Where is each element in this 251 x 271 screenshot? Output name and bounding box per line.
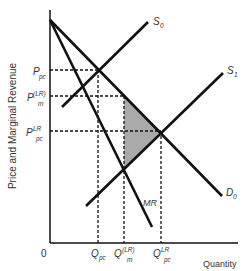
svg-text:0: 0 (160, 22, 164, 29)
y-axis-label: Price and Marginal Revenue (7, 62, 18, 189)
quantity-label-q-pc-lr: Q LR pc (153, 246, 172, 264)
price-label-p-pc: P pc (33, 66, 47, 81)
label-mr: MR (143, 198, 157, 208)
svg-text:1: 1 (234, 71, 238, 78)
svg-text:pc: pc (35, 135, 44, 143)
origin-label: 0 (41, 248, 47, 259)
svg-text:m: m (127, 256, 133, 263)
svg-text:pc: pc (98, 254, 107, 262)
svg-text:S: S (153, 16, 160, 27)
quantity-label-q-m-lr: Q (LR) m (114, 246, 135, 263)
supply-curve-s1 (86, 73, 223, 206)
deadweight-loss-area (124, 96, 161, 169)
svg-text:(LR): (LR) (33, 90, 46, 98)
svg-text:Q: Q (153, 248, 161, 259)
label-d0: D 0 (226, 187, 237, 200)
demand-curve-d0 (50, 20, 222, 196)
label-s0: S 0 (153, 16, 164, 29)
svg-text:pc: pc (38, 73, 47, 81)
svg-text:(LR): (LR) (122, 246, 135, 254)
supply-curve-s0 (62, 22, 148, 107)
svg-text:Q: Q (114, 248, 122, 259)
quantity-label-q-pc: Q pc (91, 248, 107, 262)
svg-text:m: m (38, 100, 44, 107)
x-axis-label: Quantity (203, 259, 237, 269)
svg-text:Q: Q (91, 248, 99, 259)
svg-text:P: P (26, 127, 33, 138)
svg-text:0: 0 (233, 193, 237, 200)
svg-text:S: S (227, 65, 234, 76)
label-s1: S 1 (227, 65, 238, 78)
guide-lines (50, 70, 161, 243)
diagram: Price and Marginal Revenue P pc P (LR) m… (0, 0, 251, 271)
svg-text:LR: LR (161, 246, 170, 253)
svg-text:pc: pc (163, 256, 172, 264)
price-label-p-m-lr: P (LR) m (27, 90, 46, 107)
svg-text:LR: LR (33, 125, 42, 132)
price-label-p-pc-lr: P LR pc (26, 125, 44, 143)
